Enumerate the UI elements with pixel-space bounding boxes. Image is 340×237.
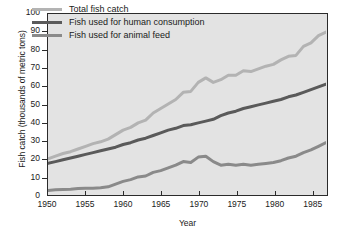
y-tick-label: 30: [14, 136, 40, 145]
x-tick-label: 1970: [179, 199, 219, 209]
legend-swatch: [32, 21, 62, 24]
y-tick-label: 60: [14, 81, 40, 90]
legend-item: Fish used for animal feed: [32, 29, 272, 42]
x-axis-title: Year: [47, 218, 328, 228]
y-tick-mark: [42, 50, 47, 51]
y-tick-label: 80: [14, 45, 40, 54]
legend-item: Total fish catch: [32, 3, 272, 16]
y-tick-mark: [42, 123, 47, 124]
legend-label: Total fish catch: [69, 4, 129, 15]
fish-catch-line-chart: Fish catch (thousands of metric tons) 01…: [0, 0, 340, 237]
series-line: [48, 143, 326, 191]
legend-label: Fish used for human consumption: [69, 17, 205, 28]
x-tick-mark: [237, 191, 238, 196]
y-tick-mark: [42, 141, 47, 142]
x-tick-mark: [313, 191, 314, 196]
series-line: [48, 32, 326, 159]
x-tick-label: 1985: [293, 199, 333, 209]
x-tick-label: 1980: [255, 199, 295, 209]
x-tick-label: 1960: [103, 199, 143, 209]
y-tick-label: 20: [14, 154, 40, 163]
y-tick-label: 10: [14, 173, 40, 182]
y-tick-mark: [42, 159, 47, 160]
x-tick-label: 1950: [27, 199, 67, 209]
x-tick-mark: [275, 191, 276, 196]
x-tick-mark: [199, 191, 200, 196]
series-line: [48, 84, 326, 163]
x-tick-label: 1975: [217, 199, 257, 209]
x-tick-mark: [123, 191, 124, 196]
y-tick-label: 70: [14, 63, 40, 72]
x-tick-mark: [161, 191, 162, 196]
legend-label: Fish used for animal feed: [69, 30, 170, 41]
legend-item: Fish used for human consumption: [32, 16, 272, 29]
x-tick-mark: [47, 191, 48, 196]
x-tick-mark: [85, 191, 86, 196]
y-tick-mark: [42, 68, 47, 69]
y-tick-label: 50: [14, 100, 40, 109]
legend-swatch: [32, 34, 62, 37]
legend-swatch: [32, 8, 62, 11]
y-tick-label: 40: [14, 118, 40, 127]
chart-legend: Total fish catchFish used for human cons…: [32, 3, 272, 42]
y-tick-mark: [42, 86, 47, 87]
y-tick-mark: [42, 178, 47, 179]
x-tick-label: 1955: [65, 199, 105, 209]
y-tick-mark: [42, 105, 47, 106]
x-tick-label: 1965: [141, 199, 181, 209]
